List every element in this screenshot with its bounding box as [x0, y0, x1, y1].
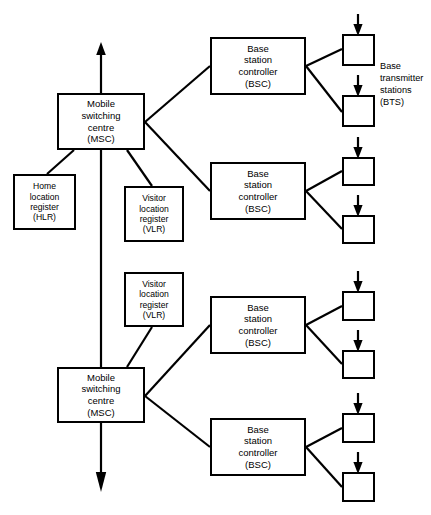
node-base-transmitter-station-5[interactable] [342, 291, 375, 321]
bts-group-label-line: transmitter [380, 72, 423, 84]
bts-3-input-arrow [353, 137, 362, 159]
edge-bsc-1-to-bts-2 [306, 66, 342, 112]
bts-8-input-arrow [353, 452, 362, 474]
node-label-line: (BSC) [245, 78, 271, 90]
node-label-line: station [244, 54, 272, 66]
node-base-transmitter-station-6[interactable] [342, 350, 375, 379]
edge-msc-top-to-bsc-2 [145, 122, 210, 191]
node-mobile-switching-centre-top[interactable]: Mobile switching centre (MSC) [57, 93, 145, 150]
edge-bsc-4-to-bts-7 [306, 428, 342, 447]
edge-msc-top-to-hlr [47, 150, 74, 174]
node-base-transmitter-station-3[interactable] [342, 157, 375, 186]
node-base-transmitter-station-2[interactable] [342, 95, 375, 127]
node-base-station-controller-2[interactable]: Base station controller (BSC) [210, 162, 306, 220]
node-label-line: (MSC) [87, 407, 114, 419]
node-visitor-location-register-bottom[interactable]: Visitor location register (VLR) [124, 272, 184, 327]
bts-6-input-arrow [353, 330, 362, 352]
node-base-transmitter-station-4[interactable] [342, 215, 375, 244]
node-label-line: switching [81, 110, 120, 122]
node-label-line: centre [88, 122, 114, 134]
node-label-line: switching [81, 383, 120, 395]
bts-1-input-arrow [353, 14, 362, 36]
trunk-up-arrow [96, 42, 106, 93]
node-base-transmitter-station-8[interactable] [342, 472, 375, 502]
node-label-line: station [244, 313, 272, 325]
node-base-transmitter-station-1[interactable] [342, 34, 375, 66]
node-label-line: (HLR) [33, 212, 56, 222]
edge-msc-bottom-to-bsc-4 [145, 396, 210, 447]
edge-bsc-4-to-bts-8 [306, 447, 342, 487]
node-label-line: controller [238, 447, 277, 459]
node-label-line: station [244, 179, 272, 191]
node-label-line: location [30, 192, 60, 202]
node-label-line: Base [247, 302, 269, 314]
edge-vlr-bottom-to-msc-bottom [127, 327, 152, 367]
bts-group-label-line: (BTS) [380, 96, 423, 108]
node-label-line: Base [247, 424, 269, 436]
node-mobile-switching-centre-bottom[interactable]: Mobile switching centre (MSC) [57, 367, 145, 423]
node-label-line: centre [88, 395, 114, 407]
edge-bsc-2-to-bts-3 [306, 171, 342, 191]
node-label-line: (VLR) [143, 224, 165, 234]
bts-2-input-arrow [353, 75, 362, 97]
node-label-line: controller [238, 325, 277, 337]
edge-msc-top-to-bsc-1 [145, 66, 210, 122]
bts-group-label: Base transmitter stations (BTS) [380, 60, 423, 109]
edge-bsc-2-to-bts-4 [306, 191, 342, 229]
node-label-line: Home [33, 181, 56, 191]
trunk-down-arrow [96, 423, 106, 492]
node-label-line: (BSC) [245, 337, 271, 349]
node-label-line: Mobile [87, 372, 115, 384]
node-base-station-controller-1[interactable]: Base station controller (BSC) [210, 37, 306, 95]
node-label-line: (VLR) [143, 310, 165, 320]
bts-4-input-arrow [353, 195, 362, 217]
edge-bsc-1-to-bts-1 [306, 49, 342, 66]
node-label-line: controller [238, 66, 277, 78]
node-base-station-controller-4[interactable]: Base station controller (BSC) [210, 418, 306, 476]
node-label-line: (BSC) [245, 459, 271, 471]
edge-msc-top-to-vlr-top [127, 150, 152, 186]
edge-bsc-3-to-bts-6 [306, 325, 342, 364]
node-label-line: register [140, 214, 169, 224]
node-base-transmitter-station-7[interactable] [342, 413, 375, 443]
bts-7-input-arrow [353, 393, 362, 415]
node-base-station-controller-3[interactable]: Base station controller (BSC) [210, 296, 306, 354]
bts-group-label-line: Base [380, 60, 423, 72]
node-label-line: location [139, 204, 169, 214]
node-label-line: Visitor [142, 279, 166, 289]
node-label-line: register [30, 202, 59, 212]
node-visitor-location-register-top[interactable]: Visitor location register (VLR) [124, 186, 184, 242]
node-label-line: Base [247, 168, 269, 180]
node-label-line: Mobile [87, 98, 115, 110]
node-label-line: station [244, 435, 272, 447]
node-label-line: register [140, 300, 169, 310]
node-label-line: Base [247, 43, 269, 55]
node-label-line: Visitor [142, 193, 166, 203]
node-label-line: controller [238, 191, 277, 203]
bts-5-input-arrow [353, 271, 362, 293]
network-architecture-diagram: Mobile switching centre (MSC) Home locat… [0, 0, 431, 515]
bts-group-label-line: stations [380, 84, 423, 96]
node-home-location-register[interactable]: Home location register (HLR) [13, 174, 76, 230]
node-label-line: (BSC) [245, 203, 271, 215]
node-label-line: location [139, 289, 169, 299]
edge-msc-bottom-to-bsc-3 [145, 325, 210, 396]
edge-bsc-3-to-bts-5 [306, 306, 342, 325]
node-label-line: (MSC) [87, 133, 114, 145]
